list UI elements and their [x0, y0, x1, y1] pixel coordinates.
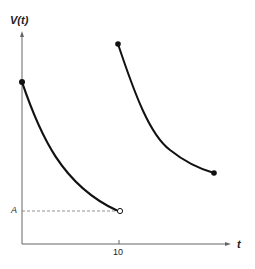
segment-1-open-endpoint — [117, 208, 122, 213]
curve-segment-1 — [22, 82, 117, 211]
level-a-label: A — [11, 205, 17, 215]
y-axis-arrow-icon — [20, 31, 24, 37]
x-tick-label: 10 — [113, 247, 123, 257]
curve-segment-2 — [118, 44, 214, 173]
segment-1-start-point — [19, 79, 25, 85]
y-axis-label: V(t) — [10, 14, 28, 26]
x-axis-arrow-icon — [225, 242, 231, 246]
segment-2-start-point — [115, 41, 121, 47]
segment-2-end-point — [211, 170, 217, 176]
x-axis-label: t — [237, 238, 241, 250]
chart-canvas — [0, 0, 255, 269]
